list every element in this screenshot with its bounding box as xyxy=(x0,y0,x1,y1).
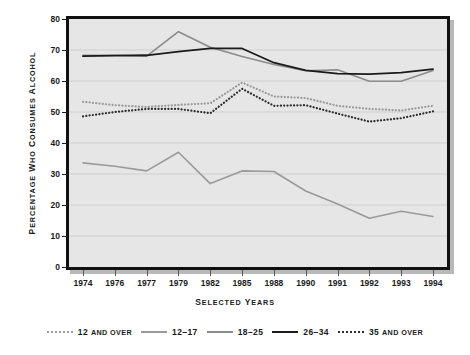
y-tick-label: 60 xyxy=(30,76,60,86)
y-tick-label: 80 xyxy=(30,14,60,24)
series-line-35-and-over xyxy=(83,89,433,122)
x-tick-label: 1994 xyxy=(413,278,453,288)
legend-swatch-dotted xyxy=(47,331,73,333)
x-tick-mark xyxy=(274,270,275,276)
legend-item-26-34[interactable]: 26–34 xyxy=(272,327,329,337)
legend-swatch-solid xyxy=(207,331,233,333)
x-axis-title: SELECTED YEARS xyxy=(0,297,470,307)
series-line-12-and-over xyxy=(83,83,433,111)
legend-item-18-25[interactable]: 18–25 xyxy=(207,327,264,337)
plot-area xyxy=(66,16,450,270)
y-tick-mark xyxy=(62,112,68,113)
legend-item-12-and-over[interactable]: 12 AND OVER xyxy=(47,327,132,337)
y-tick-mark xyxy=(62,143,68,144)
legend-label: 12 AND OVER xyxy=(78,327,132,337)
y-tick-label: 0 xyxy=(30,262,60,272)
legend-label: 35 AND OVER xyxy=(369,327,423,337)
legend-swatch-dotted xyxy=(338,331,364,333)
x-tick-mark xyxy=(115,270,116,276)
x-tick-mark xyxy=(306,270,307,276)
x-axis-title-text: SELECTED YEARS xyxy=(195,297,275,307)
y-tick-label: 50 xyxy=(30,107,60,117)
y-tick-label: 30 xyxy=(30,169,60,179)
x-tick-mark xyxy=(401,270,402,276)
y-tick-mark xyxy=(62,19,68,20)
legend-swatch-solid xyxy=(141,331,167,333)
legend-label: 12–17 xyxy=(172,327,198,337)
legend-label: 18–25 xyxy=(238,327,264,337)
x-tick-mark xyxy=(369,270,370,276)
y-tick-mark xyxy=(62,81,68,82)
chart-root: PERCENTAGE WHO CONSUMES ALCOHOL 01020304… xyxy=(0,0,470,355)
x-tick-mark xyxy=(83,270,84,276)
y-tick-label: 20 xyxy=(30,200,60,210)
y-tick-mark xyxy=(62,205,68,206)
plot-inner xyxy=(69,19,447,267)
chart-legend: 12 AND OVER12–1718–2526–3435 AND OVER xyxy=(0,327,470,337)
legend-item-35-and-over[interactable]: 35 AND OVER xyxy=(338,327,423,337)
y-tick-label: 40 xyxy=(30,138,60,148)
legend-label: 26–34 xyxy=(303,327,329,337)
x-tick-mark xyxy=(433,270,434,276)
y-tick-mark xyxy=(62,174,68,175)
series-line-12-17 xyxy=(83,152,433,218)
legend-item-12-17[interactable]: 12–17 xyxy=(141,327,198,337)
legend-swatch-solid xyxy=(272,331,298,333)
x-tick-mark xyxy=(242,270,243,276)
x-tick-mark xyxy=(210,270,211,276)
x-tick-mark xyxy=(147,270,148,276)
x-tick-mark xyxy=(178,270,179,276)
y-tick-mark xyxy=(62,267,68,268)
x-tick-mark xyxy=(338,270,339,276)
chart-svg xyxy=(69,19,447,267)
y-tick-label: 70 xyxy=(30,45,60,55)
y-tick-label: 10 xyxy=(30,231,60,241)
y-tick-mark xyxy=(62,236,68,237)
y-tick-mark xyxy=(62,50,68,51)
